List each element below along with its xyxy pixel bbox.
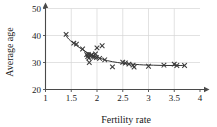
scatter-chart: 11.522.533.54 20304050 Fertility rate Av…	[0, 0, 217, 127]
x-axis-title: Fertility rate	[101, 114, 151, 125]
y-tick-label: 50	[32, 4, 42, 14]
y-axis-title: Average age	[4, 27, 15, 77]
data-point-marker	[100, 43, 105, 48]
tick-marks	[43, 9, 200, 93]
x-tick-label: 1	[43, 93, 48, 103]
y-tick-label: 20	[32, 85, 42, 95]
axis-lines	[43, 3, 210, 93]
chart-canvas: 11.522.533.54 20304050 Fertility rate Av…	[0, 0, 217, 127]
x-tick-label: 1.5	[66, 93, 78, 103]
x-tick-labels: 11.522.533.54	[43, 93, 203, 103]
x-tick-label: 3	[146, 93, 151, 103]
y-tick-labels: 20304050	[32, 4, 42, 95]
data-point-marker	[110, 65, 115, 70]
x-tick-label: 4	[198, 93, 203, 103]
data-point-marker	[132, 65, 137, 70]
x-tick-label: 2.5	[117, 93, 129, 103]
x-tick-label: 2	[95, 93, 100, 103]
y-tick-label: 40	[32, 31, 42, 41]
y-tick-label: 30	[32, 58, 42, 68]
gridlines	[46, 9, 201, 90]
x-tick-label: 3.5	[169, 93, 181, 103]
